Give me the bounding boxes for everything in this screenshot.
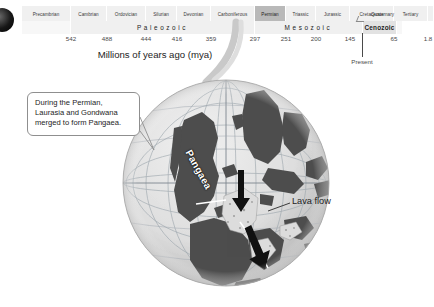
era-cell-paleozoic[interactable]: Paleozoic <box>71 21 255 34</box>
era-label: Cenozoic <box>364 24 394 31</box>
scale-value: 359 <box>206 35 216 42</box>
period-label: Tertiary <box>403 12 418 17</box>
period-label: Permian <box>261 12 278 17</box>
scale-value: 488 <box>102 35 112 42</box>
period-label-quaternary: Quaternary <box>371 12 394 17</box>
period-label: Devonian <box>184 12 204 17</box>
period-cell-tertiary[interactable]: Tertiary <box>394 6 428 21</box>
period-cell-silurian[interactable]: Silurian <box>146 6 177 21</box>
scale-value: 542 <box>66 35 76 42</box>
period-label: Ordovician <box>115 12 137 17</box>
quaternary-leader-line <box>355 16 365 22</box>
scale-value: 297 <box>250 35 260 42</box>
period-label: Triassic <box>292 12 308 17</box>
period-label: Jurassic <box>324 12 341 17</box>
era-cell-spacer[interactable] <box>22 21 71 34</box>
scale-value: 200 <box>311 35 321 42</box>
period-cell-jurassic[interactable]: Jurassic <box>316 6 350 21</box>
period-label: Silurian <box>153 12 169 17</box>
present-label: Present <box>351 58 372 65</box>
period-cell-devonian[interactable]: Devonian <box>177 6 211 21</box>
period-label: Cambrian <box>78 12 98 17</box>
bullet-dot-icon <box>0 8 14 32</box>
pangaea-globe <box>118 72 334 294</box>
present-tick-mark <box>362 33 363 57</box>
scale-value: 145 <box>345 35 355 42</box>
era-row: PaleozoicMesozoicCenozoic <box>22 21 394 34</box>
era-label: Paleozoic <box>137 24 188 31</box>
era-cell-cenozoic[interactable]: Cenozoic <box>363 21 397 34</box>
scale-value: 444 <box>141 35 151 42</box>
scale-value: 1.8 <box>424 35 433 42</box>
callout-box: During the Permian, Laurasia and Gondwan… <box>27 92 140 136</box>
era-cell-mesozoic[interactable]: Mesozoic <box>255 21 363 34</box>
period-label: Carboniferous <box>218 12 248 17</box>
period-cell-precambrian[interactable]: Precambrian <box>22 6 71 21</box>
scale-value: 416 <box>172 35 182 42</box>
period-row: PrecambrianCambrianOrdovicianSilurianDev… <box>22 6 394 21</box>
period-label: Precambrian <box>33 12 60 17</box>
period-cell-carboniferous[interactable]: Carboniferous <box>211 6 255 21</box>
era-label: Mesozoic <box>285 24 333 31</box>
map-label-lava-flow: Lava flow <box>292 196 331 206</box>
era-cell-spacer[interactable] <box>397 21 403 34</box>
scale-value: 65 <box>391 35 398 42</box>
period-cell-ordovician[interactable]: Ordovician <box>107 6 146 21</box>
period-cell-cambrian[interactable]: Cambrian <box>71 6 107 21</box>
axis-title: Millions of years ago (mya) <box>98 49 213 60</box>
time-scale: Present 542488444416359297251200145651.8 <box>22 35 394 47</box>
period-cell-spacer[interactable] <box>428 6 434 21</box>
geologic-timeline: PrecambrianCambrianOrdovicianSilurianDev… <box>22 6 394 34</box>
period-cell-triassic[interactable]: Triassic <box>286 6 316 21</box>
period-cell-permian[interactable]: Permian <box>255 6 286 21</box>
callout-text: During the Permian, Laurasia and Gondwan… <box>35 98 133 129</box>
scale-value: 251 <box>281 35 291 42</box>
